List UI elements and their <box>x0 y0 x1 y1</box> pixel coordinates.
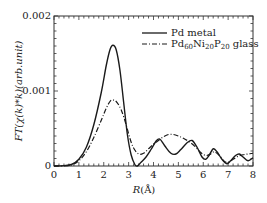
y-tick-label: 0 <box>45 160 51 171</box>
data-series <box>54 45 253 166</box>
x-tick-label: 5 <box>175 169 181 180</box>
x-axis-title: R(Å) <box>132 184 156 195</box>
series-pd-glass-line <box>54 100 253 166</box>
x-tick-label: 0 <box>51 169 57 180</box>
x-tick-label: 6 <box>200 169 206 180</box>
legend-label-pd-glass: Pd60Ni20P20 glass <box>171 38 259 51</box>
x-tick-label: 3 <box>125 169 131 180</box>
x-tick-label: 7 <box>225 169 231 180</box>
y-tick-label: 0.002 <box>22 10 51 21</box>
x-tick-label: 4 <box>150 169 156 180</box>
x-tick-label: 8 <box>250 169 256 180</box>
tick-labels: 01234567800.0010.002 <box>22 10 256 180</box>
legend: Pd metal Pd60Ni20P20 glass <box>142 27 259 51</box>
series-pd-metal-line <box>54 45 253 166</box>
x-tick-label: 2 <box>101 169 107 180</box>
y-axis-title: FT(χ(k)*k)(arb.unit) <box>13 41 24 143</box>
exafs-chart: 01234567800.0010.002 Pd metal Pd60Ni20P2… <box>0 0 267 203</box>
x-tick-label: 1 <box>76 169 82 180</box>
legend-label-pd-metal: Pd metal <box>171 27 216 38</box>
y-tick-label: 0.001 <box>22 85 51 96</box>
